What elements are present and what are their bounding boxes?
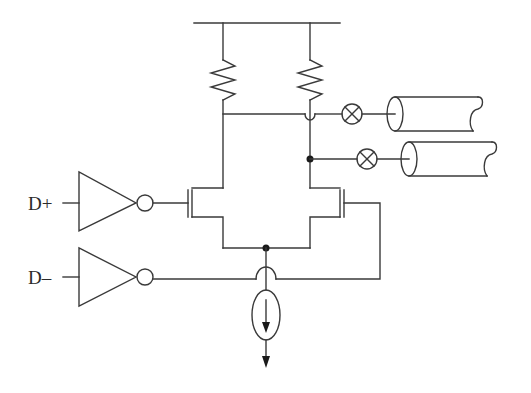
dplus-label: D+ (28, 193, 52, 214)
dminus-inverter-icon (63, 248, 153, 306)
lamp-icon (342, 104, 362, 124)
coax-cable-icon (387, 97, 483, 131)
right-resistor (298, 23, 322, 188)
circuit-diagram: D+ D– (0, 0, 531, 393)
dminus-gate-wire (153, 267, 276, 279)
current-source-icon (252, 290, 280, 368)
right-transistor-icon (276, 188, 380, 279)
coax-cable-icon (401, 142, 497, 176)
left-resistor (211, 23, 235, 188)
left-output-wire (223, 114, 395, 120)
lamp-icon (357, 149, 377, 169)
dminus-label: D– (28, 267, 52, 288)
left-transistor-icon (153, 188, 223, 248)
dplus-inverter-icon (63, 172, 153, 231)
